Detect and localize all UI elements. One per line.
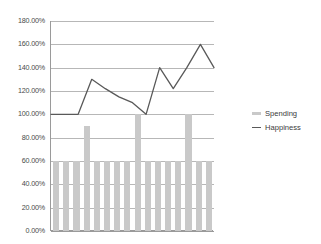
y-tick-label: 120.00%: [0, 87, 45, 94]
line-series-happiness: [51, 21, 214, 231]
chart-container: 180.00%160.00%140.00%120.00%100.00%80.00…: [0, 0, 321, 244]
legend-item[interactable]: Happiness: [252, 124, 301, 132]
legend-item[interactable]: Spending: [252, 110, 301, 118]
y-tick-label: 100.00%: [0, 110, 45, 117]
legend-label: Happiness: [265, 124, 301, 132]
gridline-0: [51, 231, 214, 232]
chart-legend: SpendingHappiness: [252, 110, 301, 137]
y-tick-label: 20.00%: [0, 204, 45, 211]
y-tick-label: 40.00%: [0, 180, 45, 187]
legend-line-swatch-icon: [252, 127, 261, 129]
plot-area: [50, 21, 213, 231]
y-tick-label: 140.00%: [0, 64, 45, 71]
happiness-polyline: [51, 44, 214, 114]
legend-label: Spending: [265, 110, 297, 118]
y-tick-label: 0.00%: [0, 227, 45, 234]
legend-bar-swatch-icon: [252, 112, 261, 115]
y-tick-label: 80.00%: [0, 134, 45, 141]
y-tick-label: 180.00%: [0, 17, 45, 24]
y-tick-label: 60.00%: [0, 157, 45, 164]
y-tick-label: 160.00%: [0, 40, 45, 47]
